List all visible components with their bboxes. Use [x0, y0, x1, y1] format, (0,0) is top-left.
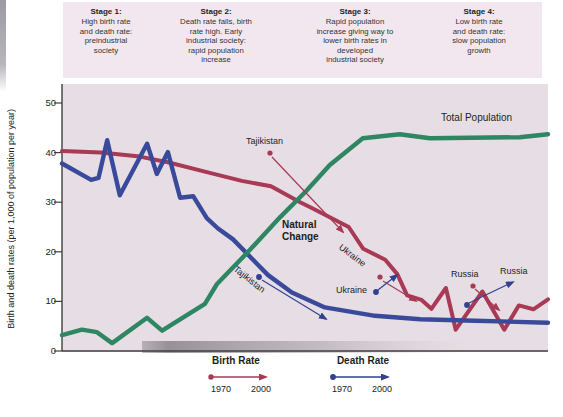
legend-birth-start-year: 1970: [205, 384, 237, 394]
tajikistan-death-arrow: [256, 274, 326, 319]
ukraine-death-label: Ukraine: [336, 285, 367, 295]
chart-canvas: [0, 0, 563, 417]
legend-birth-rate-title: Birth Rate: [198, 355, 274, 366]
total-population-label: Total Population: [441, 112, 512, 123]
tajikistan-birth-label: Tajikistan: [246, 136, 283, 146]
legend-death-end-year: 2000: [366, 384, 398, 394]
legend-death-arrow: [330, 374, 388, 380]
legend-birth-end-year: 2000: [245, 384, 277, 394]
y-tick-marks: [54, 103, 62, 351]
russia-death-label: Russia: [500, 266, 528, 276]
ukraine-death-arrow: [373, 275, 397, 295]
legend-birth-arrow: [208, 374, 266, 379]
legend-death-rate-title: Death Rate: [325, 355, 401, 366]
russia-birth-label: Russia: [451, 269, 479, 279]
demographic-transition-figure: Stage 1: High birth rate and death rate:…: [0, 0, 563, 417]
legend-death-start-year: 1970: [326, 384, 358, 394]
ukraine-birth-arrow: [377, 274, 416, 301]
natural-change-label: Natural Change: [282, 219, 319, 242]
